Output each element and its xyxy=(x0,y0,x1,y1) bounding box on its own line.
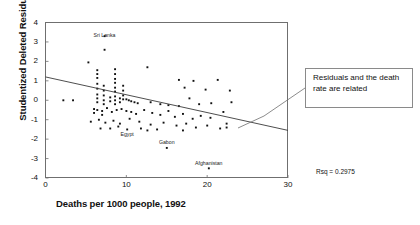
point-label-2: Gabon xyxy=(137,139,197,145)
x-tick-3: 30 xyxy=(273,180,303,189)
y-tick-3: 1 xyxy=(14,76,38,85)
top-artifact-strip xyxy=(0,0,420,7)
y-tick-6: -2 xyxy=(14,134,38,143)
y-tick-1: 3 xyxy=(14,37,38,46)
y-tick-4: 0 xyxy=(14,95,38,104)
point-label-3: Afghanistan xyxy=(179,160,239,166)
x-axis-label: Deaths per 1000 people, 1992 xyxy=(56,198,186,209)
plot-area xyxy=(45,22,288,178)
rsq-annotation: Rsq = 0.2975 xyxy=(316,168,355,175)
x-tick-2: 20 xyxy=(192,180,222,189)
x-tick-1: 10 xyxy=(111,180,141,189)
y-tick-7: -3 xyxy=(14,154,38,163)
point-label-0: Sri Lanka xyxy=(75,32,135,38)
y-tick-2: 2 xyxy=(14,56,38,65)
x-tick-0: 0 xyxy=(31,180,61,189)
callout-box: Residuals and the death rate are related xyxy=(305,68,413,108)
point-label-1: Egypt xyxy=(97,131,157,137)
y-tick-5: -1 xyxy=(14,115,38,124)
scatter-chart: Studentized Deleted Residual Deaths per … xyxy=(0,0,420,225)
callout-text: Residuals and the death rate are related xyxy=(313,73,399,93)
y-tick-0: 4 xyxy=(14,18,38,27)
